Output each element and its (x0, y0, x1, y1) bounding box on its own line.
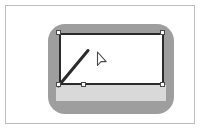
selection-handle-inner-bottom[interactable] (81, 82, 86, 87)
arrow-cursor-shape (98, 52, 107, 66)
arrow-cursor-icon (96, 51, 108, 68)
selection-handle-bottom-right[interactable] (160, 82, 165, 87)
selection-handle-bottom-left[interactable] (56, 82, 61, 87)
figure-canvas: Rectangle shape selected on canvas A whi… (0, 0, 201, 130)
figure-frame (5, 5, 195, 124)
selection-handle-top-left[interactable] (56, 30, 61, 35)
selection-handle-top-right[interactable] (160, 30, 165, 35)
diagonal-line-stroke (59, 51, 89, 87)
